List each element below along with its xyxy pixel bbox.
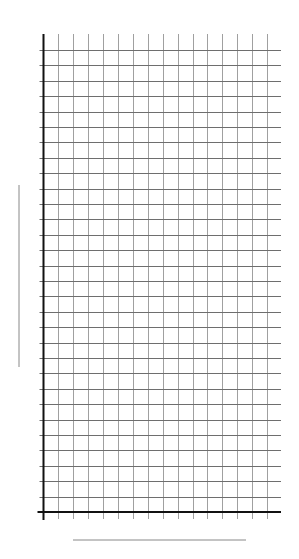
blank-chart	[0, 0, 299, 559]
vertical-gridlines	[59, 34, 268, 512]
horizontal-gridlines	[44, 51, 282, 498]
